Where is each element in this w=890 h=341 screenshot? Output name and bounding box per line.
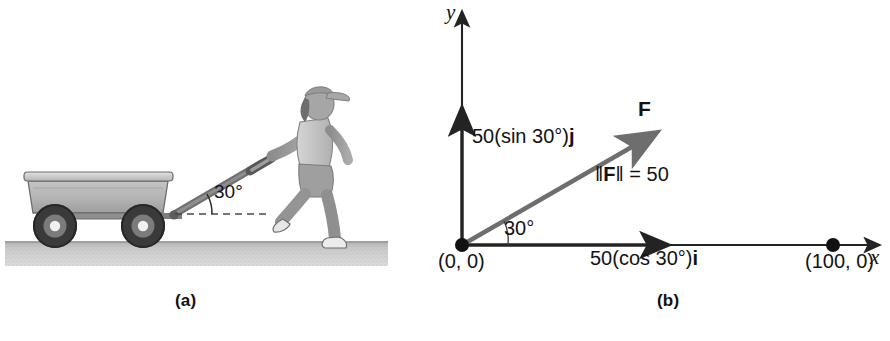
y-component-label: 50(sin 30°)j	[472, 126, 575, 146]
x-component-label: 50(cos 30°)i	[590, 248, 698, 268]
point-coordinate-label: (100, 0)	[805, 251, 874, 271]
origin-coordinate-label: (0, 0)	[438, 251, 485, 271]
wagon-wheel-front	[121, 204, 165, 248]
panel-b-vector-diagram: 50(sin 30°)j F ‖F‖ = 50 30° 50(cos 30°)i…	[420, 0, 890, 341]
panel-a-wagon-illustration: 30°	[0, 0, 420, 341]
angle-label-a: 30°	[214, 182, 243, 201]
caption-a: (a)	[175, 291, 196, 311]
y-axis-label: y	[446, 2, 455, 23]
vector-magnitude-label: ‖F‖ = 50	[595, 164, 669, 184]
child-figure	[272, 87, 350, 248]
vector-F-label: F	[638, 98, 651, 119]
wagon-wheel-rear	[33, 204, 77, 248]
caption-b: (b)	[657, 291, 679, 311]
x-axis-label: x	[870, 247, 879, 268]
wagon-scene-svg	[0, 0, 420, 341]
angle-label-b: 30°	[504, 218, 534, 238]
force-vector-F	[462, 133, 656, 245]
figure: 30°	[0, 0, 890, 341]
